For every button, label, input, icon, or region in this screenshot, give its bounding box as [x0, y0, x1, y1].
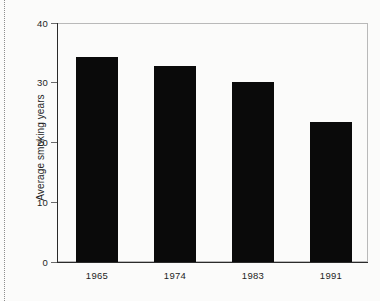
page-margin-dotted-rule: [4, 0, 5, 301]
x-axis-line: [57, 262, 368, 263]
y-tick-mark-0: [51, 262, 57, 263]
y-tick-mark-30: [51, 82, 57, 83]
y-tick-mark-10: [51, 202, 57, 203]
y-tick-mark-40: [51, 23, 57, 24]
x-tick-label-1965: 1965: [67, 270, 127, 281]
y-tick-label-40: 40: [37, 18, 48, 29]
x-tick-label-1983: 1983: [223, 270, 283, 281]
y-axis-line: [57, 23, 58, 262]
bar-1983: [232, 82, 274, 262]
bar-1965: [76, 57, 118, 262]
bar-1974: [154, 66, 196, 262]
y-tick-mark-20: [51, 142, 57, 143]
x-tick-label-1974: 1974: [145, 270, 205, 281]
bar-chart-figure: 40 30 20 10 0 1965 1974 1983 1991 Averag…: [0, 0, 380, 301]
bar-1991: [310, 122, 352, 262]
x-tick-label-1991: 1991: [301, 270, 361, 281]
y-tick-label-0: 0: [43, 257, 48, 268]
y-axis-title: Average smoking years: [35, 78, 46, 218]
